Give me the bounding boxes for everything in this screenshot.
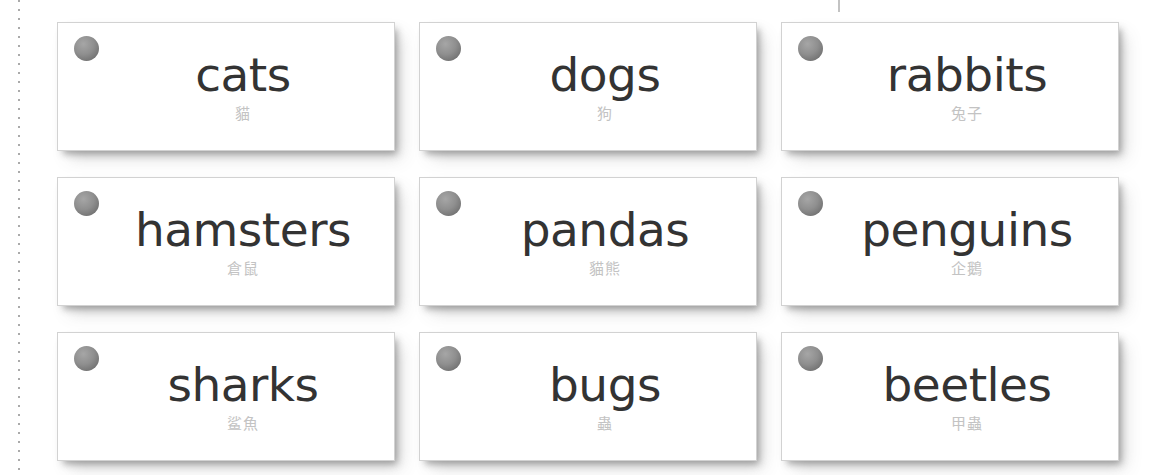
flashcard[interactable]: bugs 蟲	[419, 332, 757, 461]
flashcard-term-chinese: 企鵝	[951, 262, 983, 277]
flashcard-text-stack: pandas 貓熊	[420, 178, 756, 305]
flashcard[interactable]: dogs 狗	[419, 22, 757, 151]
cut-guide-line-left	[18, 0, 20, 475]
flashcard-text-stack: sharks 鲨魚	[58, 333, 394, 460]
flashcard-term-chinese: 甲蟲	[951, 417, 983, 432]
flashcard[interactable]: penguins 企鵝	[781, 177, 1119, 306]
flashcard-text-stack: bugs 蟲	[420, 333, 756, 460]
flashcard-text-stack: hamsters 倉鼠	[58, 178, 394, 305]
flashcard-term-english: dogs	[550, 51, 661, 98]
flashcard-term-english: sharks	[167, 361, 318, 408]
flashcard-term-chinese: 狗	[597, 107, 613, 122]
flashcard[interactable]: pandas 貓熊	[419, 177, 757, 306]
flashcard[interactable]: sharks 鲨魚	[57, 332, 395, 461]
flashcard[interactable]: rabbits 兔子	[781, 22, 1119, 151]
flashcard-term-chinese: 倉鼠	[227, 262, 259, 277]
flashcard-term-chinese: 貓	[235, 107, 251, 122]
flashcard-term-english: pandas	[521, 206, 690, 253]
crop-mark-icon	[838, 0, 840, 12]
flashcard-term-chinese: 貓熊	[589, 262, 621, 277]
flashcard-term-english: penguins	[861, 206, 1073, 253]
flashcard[interactable]: cats 貓	[57, 22, 395, 151]
flashcard-term-english: bugs	[549, 361, 661, 408]
flashcard-term-english: hamsters	[135, 206, 351, 253]
flashcard-text-stack: beetles 甲蟲	[782, 333, 1118, 460]
flashcard-text-stack: penguins 企鵝	[782, 178, 1118, 305]
flashcard[interactable]: beetles 甲蟲	[781, 332, 1119, 461]
flashcard-term-english: rabbits	[887, 51, 1047, 98]
flashcard-sheet: cats 貓 dogs 狗 rabbits 兔子 hamsters 倉鼠	[0, 0, 1176, 475]
flashcard-term-chinese: 兔子	[951, 107, 983, 122]
flashcard-term-english: beetles	[882, 361, 1051, 408]
flashcard-text-stack: rabbits 兔子	[782, 23, 1118, 150]
flashcard-term-chinese: 鲨魚	[227, 417, 259, 432]
flashcard-text-stack: cats 貓	[58, 23, 394, 150]
flashcard-text-stack: dogs 狗	[420, 23, 756, 150]
flashcard-term-chinese: 蟲	[597, 417, 613, 432]
flashcard[interactable]: hamsters 倉鼠	[57, 177, 395, 306]
flashcard-grid: cats 貓 dogs 狗 rabbits 兔子 hamsters 倉鼠	[57, 22, 1119, 461]
flashcard-term-english: cats	[195, 51, 291, 98]
